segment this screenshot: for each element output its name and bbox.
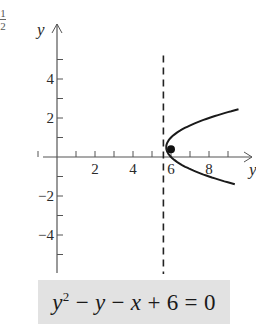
axes	[43, 24, 252, 273]
x-axis-label: y	[247, 160, 256, 179]
x-tick-label: 2	[91, 161, 99, 177]
highlighted-point	[167, 145, 175, 153]
y-tick-label: 2	[47, 110, 55, 126]
y-tick-label: −2	[38, 188, 54, 204]
y-axis-label: y	[35, 20, 45, 39]
y-tick-label: 4	[47, 71, 55, 87]
parabola-curve	[166, 109, 238, 184]
x-tick-label: 4	[129, 161, 137, 177]
x-tick-label: 6	[167, 161, 175, 177]
equation-text: y2 − y − x + 6 = 0	[52, 289, 215, 316]
equation-caption-box: y2 − y − x + 6 = 0	[38, 280, 230, 324]
y-tick-label: −4	[38, 227, 54, 243]
